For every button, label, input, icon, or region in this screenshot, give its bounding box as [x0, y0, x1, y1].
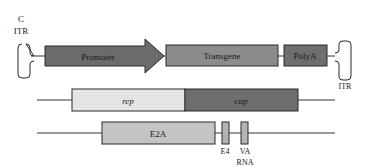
promoter-label: Promoter — [81, 52, 115, 62]
e4-label: E4 — [221, 147, 230, 156]
e4-box — [222, 122, 229, 144]
va-label: VA — [240, 147, 251, 156]
vector-plasmid-row: C ITR Promoter Transgene PolyA ITR — [14, 14, 352, 91]
helper-row: E2A E4 VA RNA — [37, 122, 335, 167]
va-box — [241, 122, 248, 144]
transgene-label: Transgene — [203, 51, 240, 61]
polya-label: PolyA — [293, 51, 317, 61]
rep-cap-row: rep cap — [37, 89, 335, 111]
rep-label: rep — [122, 96, 134, 106]
left-itr-label-c: C — [18, 14, 24, 24]
right-itr-icon — [335, 41, 351, 80]
aav-diagram: C ITR Promoter Transgene PolyA ITR rep c… — [0, 0, 368, 167]
right-itr-label: ITR — [339, 82, 353, 91]
va-rna-label: RNA — [237, 158, 254, 167]
cap-label: cap — [235, 96, 248, 106]
e2a-label: E2A — [150, 129, 167, 139]
left-itr-label: ITR — [14, 26, 29, 36]
left-itr-icon — [18, 44, 34, 78]
